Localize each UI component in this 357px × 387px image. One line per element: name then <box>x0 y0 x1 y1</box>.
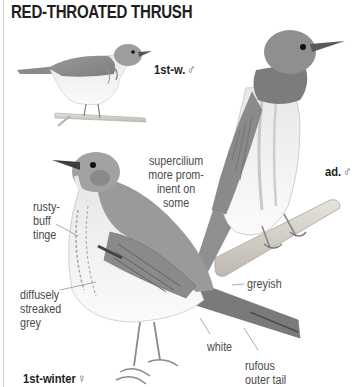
male-symbol-icon: ♂ <box>343 164 351 179</box>
annotation-rufous-outer-tail: rufous outer tail <box>245 359 286 387</box>
label-adult-male: ad.♂ <box>325 164 351 179</box>
annotation-diffusely-streaked: diffusely streaked grey <box>20 288 61 330</box>
bird-adult-male <box>194 30 345 276</box>
annotation-supercilium: supercilium more prom- inent on some <box>140 154 212 210</box>
annotation-white: white <box>207 340 232 354</box>
label-first-winter-female: 1st-winter♀ <box>23 371 86 386</box>
female-symbol-icon: ♀ <box>78 371 86 386</box>
bird-first-winter-male <box>17 44 152 126</box>
male-symbol-icon: ♂ <box>187 62 195 77</box>
label-first-winter-male: 1st-w.♂ <box>154 62 195 77</box>
annotation-rusty-buff-tinge: rusty- buff tinge <box>33 200 60 242</box>
field-guide-plate: RED-THROATED THRUSH <box>0 0 357 387</box>
annotation-greyish: greyish <box>247 277 282 291</box>
